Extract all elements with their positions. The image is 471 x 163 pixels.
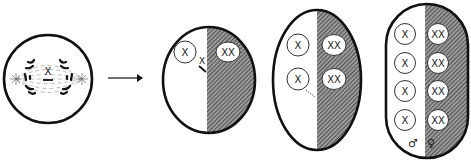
- nucleus-xx: XX: [431, 29, 445, 40]
- mitosis-cell: X: [4, 35, 92, 123]
- eight-cell-stage: X X X X XX XX XX XX ♂ ♀: [386, 4, 470, 158]
- male-symbol-icon: ♂: [408, 137, 418, 150]
- four-cell-stage: X X XX XX: [270, 5, 367, 155]
- nucleus-x: X: [402, 29, 409, 40]
- lost-chromosome-label: X: [199, 56, 205, 66]
- nucleus-x: X: [402, 86, 409, 97]
- nucleus-x: X: [295, 74, 302, 85]
- two-cell-stage: X XX X: [160, 20, 267, 140]
- chromosome-label: X: [45, 66, 52, 77]
- nucleus-xx: XX: [221, 47, 235, 58]
- arrow-icon: [108, 74, 143, 82]
- female-symbol-icon: ♀: [427, 137, 435, 150]
- nucleus-x: X: [402, 115, 409, 126]
- nucleus-xx: XX: [327, 40, 341, 51]
- diagram-canvas: X X XX X X X XX XX: [0, 0, 471, 163]
- nucleus-x: X: [402, 58, 409, 69]
- nucleus-xx: XX: [327, 74, 341, 85]
- nucleus-xx: XX: [431, 86, 445, 97]
- nucleus-xx: XX: [431, 115, 445, 126]
- nucleus-x: X: [182, 47, 189, 58]
- nucleus-xx: XX: [431, 58, 445, 69]
- nucleus-x: X: [295, 40, 302, 51]
